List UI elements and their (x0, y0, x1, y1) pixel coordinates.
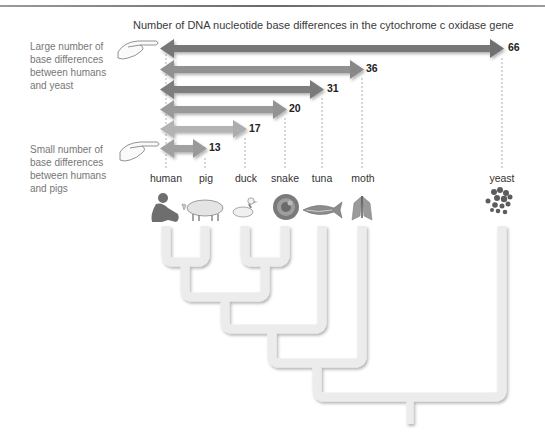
label-snake: snake (271, 172, 299, 184)
pig-icon (182, 200, 223, 221)
arrow-human-yeast (160, 39, 504, 58)
label-human: human (150, 172, 182, 184)
snake-icon (273, 194, 299, 220)
diagram-canvas (0, 0, 545, 443)
label-duck: duck (235, 172, 257, 184)
value-duck: 17 (249, 122, 261, 134)
moth-icon (352, 196, 372, 220)
pointing-hand-icon (120, 142, 159, 161)
arrow-human-moth (160, 60, 364, 79)
pointing-hand-icon (118, 41, 158, 59)
label-pig: pig (199, 172, 213, 184)
value-moth: 36 (366, 62, 378, 74)
arrow-human-snake (160, 100, 287, 119)
yeast-icon (486, 187, 513, 214)
tuna-icon (303, 202, 342, 218)
label-moth: moth (351, 172, 374, 184)
arrow-human-pig (160, 139, 207, 158)
phylogenetic-tree (166, 226, 502, 424)
arrow-human-duck (160, 120, 247, 138)
value-tuna: 31 (327, 82, 339, 94)
arrow-human-tuna (160, 80, 324, 99)
label-yeast: yeast (489, 172, 514, 184)
value-yeast: 66 (508, 41, 520, 53)
value-snake: 20 (289, 102, 301, 114)
label-tuna: tuna (312, 172, 332, 184)
duck-icon (233, 198, 258, 217)
human-icon (152, 193, 179, 222)
value-pig: 13 (209, 141, 221, 153)
